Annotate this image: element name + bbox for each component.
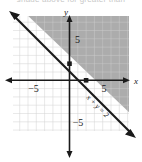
x-tick-label-negative-5: −5 (28, 83, 39, 94)
y-axis-label: y (63, 7, 68, 17)
coordinate-plane-svg: −5 5 5 −5 x y x + y = 2 (0, 0, 142, 162)
y-intercept-point (67, 61, 72, 66)
x-axis-label: x (133, 76, 138, 86)
y-tick-label-negative-5: −5 (73, 117, 84, 128)
x-tick-label-positive-5: 5 (102, 83, 107, 94)
x-axis-left-arrow (5, 77, 12, 83)
cropped-header-text: shade above for greater than (0, 0, 142, 4)
graph-figure: shade above for greater than (0, 0, 142, 162)
y-tick-label-positive-5: 5 (75, 34, 80, 45)
x-intercept-point (84, 78, 89, 83)
y-axis-bottom-arrow (67, 151, 73, 158)
